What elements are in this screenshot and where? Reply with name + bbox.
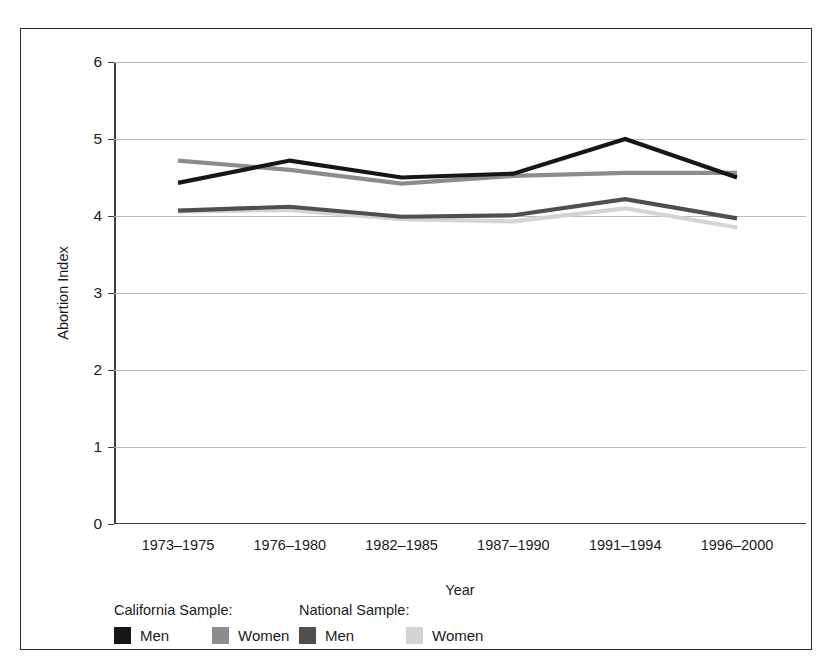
y-tick-label: 5 — [93, 130, 102, 148]
legend-item[interactable]: Men — [299, 627, 354, 644]
legend-label: Men — [140, 627, 169, 644]
legend-headers: California Sample:National Sample: — [114, 602, 674, 624]
y-tick-label: 3 — [93, 284, 102, 302]
legend-group-header: National Sample: — [299, 602, 409, 618]
y-tick-mark — [108, 524, 114, 525]
legend-label: Women — [238, 627, 289, 644]
x-tick-label: 1996–2000 — [701, 537, 774, 553]
legend: California Sample:National Sample: MenWo… — [114, 602, 674, 653]
x-tick-label: 1976–1980 — [254, 537, 327, 553]
figure-border: Abortion Index Year 0123456 1973–1975197… — [20, 28, 812, 650]
legend-item[interactable]: Men — [114, 627, 169, 644]
legend-swatch — [114, 627, 131, 644]
series-line — [178, 139, 737, 183]
legend-label: Women — [432, 627, 483, 644]
x-axis-title: Year — [445, 582, 474, 598]
legend-entries: MenWomenMenWomen — [114, 627, 674, 653]
x-tick-label: 1982–1985 — [365, 537, 438, 553]
legend-swatch — [299, 627, 316, 644]
legend-item[interactable]: Women — [212, 627, 289, 644]
y-axis-title: Abortion Index — [55, 246, 71, 340]
legend-item[interactable]: Women — [406, 627, 483, 644]
legend-group-header: California Sample: — [114, 602, 232, 618]
legend-swatch — [212, 627, 229, 644]
x-tick-label: 1991–1994 — [589, 537, 662, 553]
y-tick-label: 0 — [93, 515, 102, 533]
y-tick-label: 6 — [93, 53, 102, 71]
x-tick-label: 1987–1990 — [477, 537, 550, 553]
x-tick-label: 1973–1975 — [142, 537, 215, 553]
legend-label: Men — [325, 627, 354, 644]
y-tick-label: 4 — [93, 207, 102, 225]
series-line — [178, 199, 737, 218]
y-tick-label: 1 — [93, 438, 102, 456]
series-lines — [114, 62, 806, 524]
plot-area: 0123456 1973–19751976–19801982–19851987–… — [114, 62, 806, 524]
y-tick-label: 2 — [93, 361, 102, 379]
legend-swatch — [406, 627, 423, 644]
